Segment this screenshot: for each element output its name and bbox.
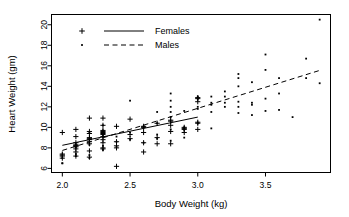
data-point-male — [238, 101, 240, 103]
scatter-plot: 68101214161820 2.02.53.03.5 Heart Weight… — [0, 0, 349, 217]
legend-label-females: Females — [155, 26, 190, 36]
data-point-male — [224, 102, 226, 104]
data-point-male — [61, 162, 63, 164]
data-point-male — [210, 111, 212, 113]
y-tick-label: 20 — [40, 20, 50, 30]
data-point-male — [170, 106, 172, 108]
data-point-male — [210, 102, 212, 104]
x-tick-label: 3.0 — [192, 180, 204, 190]
data-point-male — [238, 77, 240, 79]
y-tick-label: 18 — [40, 40, 50, 50]
data-point-male — [197, 108, 199, 110]
data-point-male — [265, 54, 267, 56]
data-point-male — [224, 91, 226, 93]
data-point-male — [265, 98, 267, 100]
data-point-male — [170, 93, 172, 95]
data-point-male — [251, 81, 253, 83]
data-point-male — [251, 102, 253, 104]
data-point-male — [197, 106, 199, 108]
y-tick-label: 10 — [40, 122, 50, 132]
data-point-male — [170, 111, 172, 113]
y-tick-label: 16 — [40, 61, 50, 71]
y-tick-label: 8 — [40, 145, 50, 150]
data-point-male — [183, 137, 185, 139]
data-point-male — [210, 96, 212, 98]
data-point-male — [251, 114, 253, 116]
data-point-male — [292, 116, 294, 118]
data-point-male — [238, 112, 240, 114]
data-point-male — [224, 96, 226, 98]
data-point-male — [116, 136, 118, 138]
data-point-male — [265, 110, 267, 112]
data-point-male — [238, 73, 240, 75]
data-point-male — [156, 111, 158, 113]
x-axis-label: Body Weight (kg) — [155, 198, 228, 209]
data-point-male — [238, 106, 240, 108]
y-tick-label: 6 — [40, 166, 50, 171]
data-point-male — [238, 85, 240, 87]
data-point-male — [319, 19, 321, 21]
data-point-male — [81, 44, 83, 46]
data-point-male — [278, 109, 280, 111]
y-axis-label: Heart Weight (gm) — [6, 55, 17, 132]
data-point-male — [210, 127, 212, 129]
data-point-male — [183, 110, 185, 112]
data-point-male — [278, 77, 280, 79]
data-point-male — [319, 82, 321, 84]
data-point-male — [278, 93, 280, 95]
chart-figure: 68101214161820 2.02.53.03.5 Heart Weight… — [0, 0, 349, 217]
data-point-male — [265, 69, 267, 71]
y-tick-label: 14 — [40, 81, 50, 91]
x-tick-label: 3.5 — [260, 180, 272, 190]
y-tick-label: 12 — [40, 102, 50, 112]
data-point-male — [224, 106, 226, 108]
data-point-male — [170, 100, 172, 102]
legend-label-males: Males — [155, 40, 180, 50]
x-tick-label: 2.0 — [56, 180, 68, 190]
x-tick-label: 2.5 — [124, 180, 136, 190]
data-point-male — [129, 100, 131, 102]
data-point-male — [305, 77, 307, 79]
data-point-male — [305, 58, 307, 60]
data-point-male — [251, 104, 253, 106]
